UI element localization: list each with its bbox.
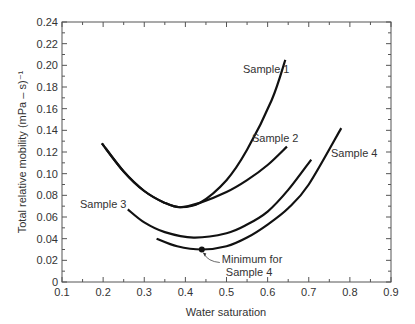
series-label: Sample 4 bbox=[331, 147, 377, 159]
x-tick-label: 0.4 bbox=[178, 286, 193, 298]
y-tick-label: 0.02 bbox=[37, 254, 58, 266]
x-tick-label: 0.9 bbox=[383, 286, 398, 298]
y-tick-label: 0.14 bbox=[37, 124, 58, 136]
x-axis-label: Water saturation bbox=[186, 306, 266, 318]
y-tick-label: 0.18 bbox=[37, 81, 58, 93]
chart: 0.10.20.30.40.50.60.70.80.900.020.040.06… bbox=[0, 0, 415, 324]
minimum-marker bbox=[199, 247, 205, 253]
annotation-text: Sample 4 bbox=[226, 266, 272, 278]
y-tick-label: 0 bbox=[52, 276, 58, 288]
y-tick-label: 0.24 bbox=[37, 16, 58, 28]
series-labels: Sample 1Sample 2Sample 3Sample 4 bbox=[80, 63, 377, 210]
y-axis-label: Total relative mobility (mPa – s)⁻¹ bbox=[16, 70, 28, 233]
x-tick-label: 0.7 bbox=[301, 286, 316, 298]
y-tick-label: 0.08 bbox=[37, 189, 58, 201]
annotation-text: Minimum for bbox=[222, 253, 283, 265]
y-tick-label: 0.16 bbox=[37, 103, 58, 115]
series-line bbox=[102, 143, 287, 207]
x-tick-label: 0.2 bbox=[95, 286, 110, 298]
annotation: Minimum forSample 4 bbox=[199, 247, 283, 278]
curves bbox=[102, 60, 341, 250]
series-label: Sample 3 bbox=[80, 198, 126, 210]
y-tick-label: 0.10 bbox=[37, 168, 58, 180]
x-tick-label: 0.8 bbox=[342, 286, 357, 298]
x-tick-label: 0.5 bbox=[219, 286, 234, 298]
series-label: Sample 1 bbox=[243, 63, 289, 75]
y-tick-label: 0.06 bbox=[37, 211, 58, 223]
x-tick-label: 0.6 bbox=[260, 286, 275, 298]
y-tick-label: 0.20 bbox=[37, 59, 58, 71]
y-tick-label: 0.12 bbox=[37, 146, 58, 158]
y-tick-label: 0.04 bbox=[37, 233, 58, 245]
y-tick-label: 0.22 bbox=[37, 38, 58, 50]
series-label: Sample 2 bbox=[252, 132, 298, 144]
x-tick-label: 0.3 bbox=[137, 286, 152, 298]
